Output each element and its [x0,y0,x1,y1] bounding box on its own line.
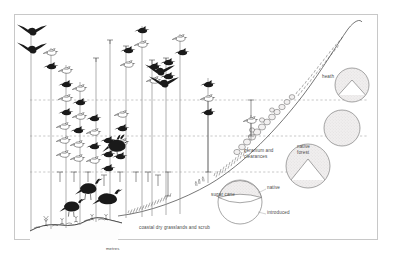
duck-marker [92,189,122,204]
bird-species-markers [17,24,258,216]
label-native-forest: native forest [297,144,310,156]
label-coastal-dry-grasslands-and-scrub: coastal dry grasslands and scrub [139,225,210,231]
pie-heath [335,68,369,102]
ecology-distribution-figure: heath native forest geranium and clearan… [0,0,396,266]
fowl-marker [102,134,127,155]
legend-label-native: native [267,185,280,191]
label-heath: heath [322,74,334,80]
pie-native-forest [324,110,360,146]
axis-label-metres: metres [106,246,120,251]
label-geranium-and-clearances: geranium and clearances [244,148,274,160]
heron-marker [75,178,103,200]
label-sugar-cane: sugar cane [211,192,235,198]
pie-native-introduced [218,180,262,224]
range-bar-caps [57,40,254,196]
legend-label-introduced: introduced [267,210,290,216]
wader-marker [59,199,85,217]
